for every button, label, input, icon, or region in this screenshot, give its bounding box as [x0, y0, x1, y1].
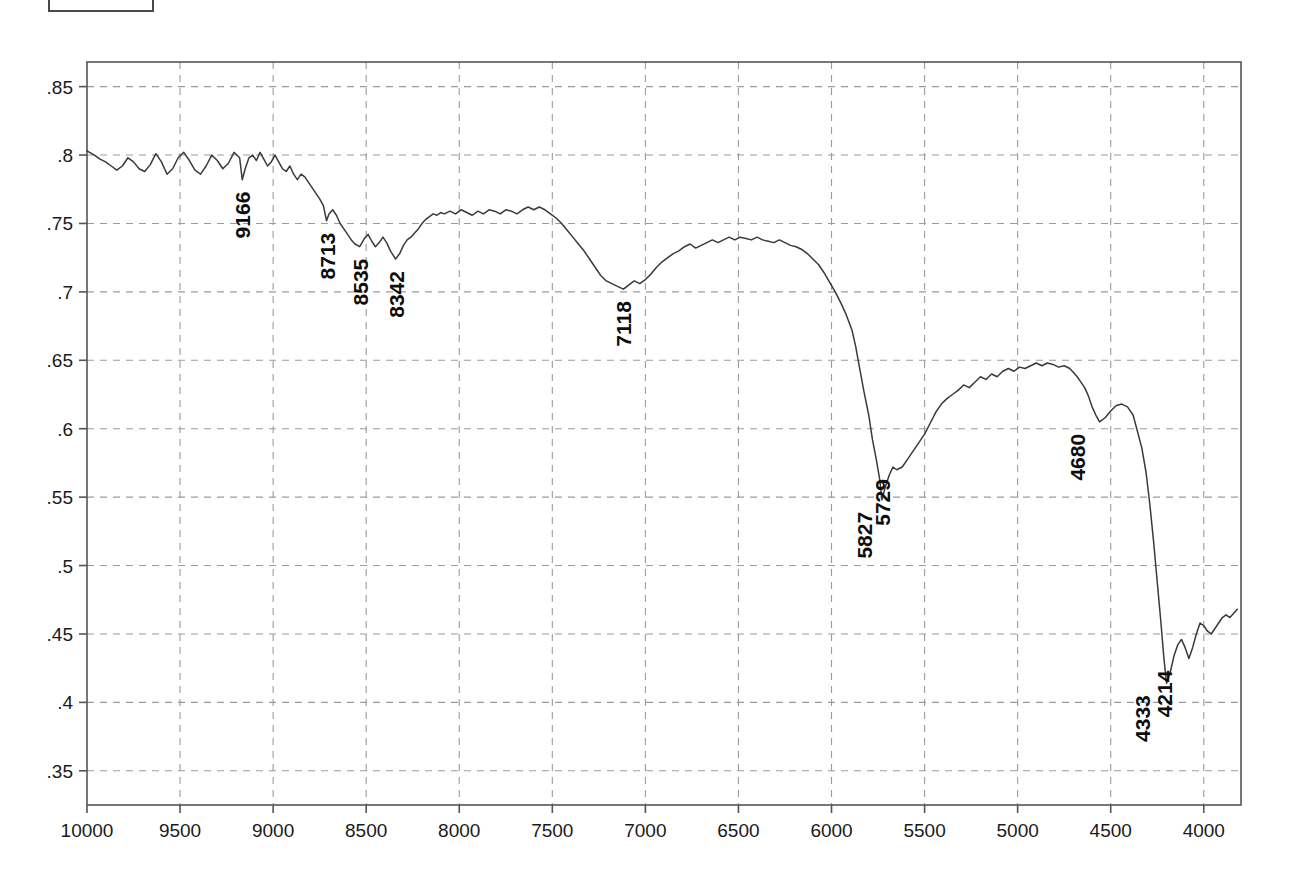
y-tick-label: .85: [47, 77, 73, 98]
plot-frame: [87, 62, 1241, 805]
y-tick-label: .5: [57, 556, 73, 577]
y-axis-labels: .35.4.45.5.55.6.65.7.75.8.85: [47, 77, 74, 782]
peak-label: 4333: [1131, 695, 1154, 742]
y-tick-label: .75: [47, 213, 73, 234]
y-tick-label: .55: [47, 487, 73, 508]
x-tick-label: 7000: [624, 820, 666, 841]
x-tick-label: 5500: [903, 820, 945, 841]
y-tick-label: .45: [47, 624, 73, 645]
y-tick-label: .7: [57, 282, 73, 303]
peak-label: 9166: [231, 192, 254, 239]
peak-label: 4214: [1153, 670, 1176, 717]
x-tick-label: 7500: [531, 820, 573, 841]
x-tick-label: 4500: [1090, 820, 1132, 841]
spectrum-curve: [87, 151, 1237, 683]
grid-lines: [87, 62, 1241, 805]
x-tick-label: 4000: [1183, 820, 1225, 841]
x-tick-label: 9000: [252, 820, 294, 841]
y-tick-label: .6: [57, 419, 73, 440]
y-tick-label: .8: [57, 145, 73, 166]
y-tick-label: .35: [47, 761, 73, 782]
plot-border: [87, 62, 1241, 805]
spectrum-line: [87, 151, 1237, 683]
x-tick-label: 9500: [159, 820, 201, 841]
peak-label: 4680: [1066, 434, 1089, 481]
x-tick-label: 6000: [810, 820, 852, 841]
spectrum-chart: 1000095009000850080007500700065006000550…: [0, 0, 1294, 873]
x-tick-label: 6500: [717, 820, 759, 841]
peak-label: 8342: [385, 271, 408, 318]
peak-label: 8713: [316, 233, 339, 280]
peak-label: 8535: [349, 258, 372, 305]
peak-label: 7118: [612, 301, 635, 347]
spectrum-page: 1000095009000850080007500700065006000550…: [0, 0, 1294, 873]
x-tick-label: 10000: [61, 820, 114, 841]
x-axis-labels: 1000095009000850080007500700065006000550…: [61, 820, 1225, 841]
y-tick-label: .65: [47, 350, 73, 371]
y-tick-label: .4: [57, 692, 73, 713]
x-tick-label: 8500: [345, 820, 387, 841]
peak-label: 5729: [871, 479, 894, 526]
peak-annotations: 9166871385358342711858275729468043334214: [231, 192, 1176, 742]
x-tick-label: 8000: [438, 820, 480, 841]
x-tick-label: 5000: [997, 820, 1039, 841]
